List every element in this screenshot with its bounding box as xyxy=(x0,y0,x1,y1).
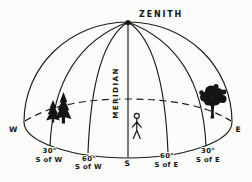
bearing-direction: S of E xyxy=(155,161,179,169)
bearing-degrees: 30° xyxy=(201,147,215,155)
deciduous-tree-icon xyxy=(199,84,226,119)
bearing-direction: S of W xyxy=(36,156,63,164)
bearing-degrees: 60° xyxy=(160,152,174,160)
bearing-degrees: 30° xyxy=(43,147,57,155)
compass-west-label: W xyxy=(9,125,18,134)
compass-east-label: E xyxy=(236,125,242,134)
meridian-label: MERIDIAN xyxy=(111,67,120,119)
zenith-dot xyxy=(125,20,130,25)
bearing-label-30-s-of-e: 30° S of E xyxy=(196,147,220,164)
bearing-direction: S of W xyxy=(75,163,102,171)
compass-south-label: S xyxy=(125,159,131,168)
bearing-degrees: 60° xyxy=(82,155,96,163)
sky-dome-svg: ZENITH MERIDIAN W S E 30° S of W 60° S o… xyxy=(0,0,252,182)
person-figure-icon xyxy=(132,113,141,138)
sky-dome-diagram: ZENITH MERIDIAN W S E 30° S of W 60° S o… xyxy=(0,0,252,182)
bearing-label-30-s-of-w: 30° S of W xyxy=(36,147,63,164)
pine-tree-icon xyxy=(46,92,72,124)
bearing-direction: S of E xyxy=(196,156,220,164)
zenith-label: ZENITH xyxy=(139,10,183,19)
